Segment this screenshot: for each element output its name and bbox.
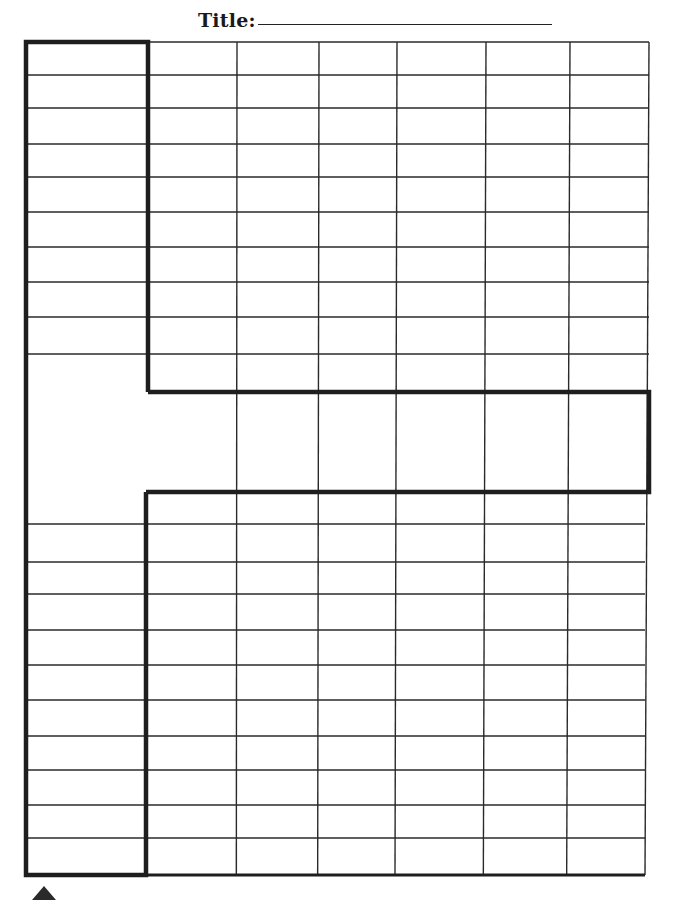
left-column-cell[interactable] [26, 805, 148, 838]
grid-cell[interactable] [570, 282, 649, 317]
grid-cell[interactable] [148, 108, 237, 144]
grid-cell[interactable] [148, 177, 237, 212]
grid-cell[interactable] [397, 317, 486, 354]
grid-cell[interactable] [319, 562, 397, 594]
grid-cell[interactable] [237, 562, 319, 594]
left-column-cell[interactable] [26, 317, 148, 354]
grid-cell[interactable] [237, 665, 319, 700]
grid-cell[interactable] [237, 282, 319, 317]
grid-cell[interactable] [570, 665, 649, 700]
grid-cell[interactable] [570, 144, 649, 177]
grid-cell[interactable] [397, 805, 486, 838]
left-column-cell[interactable] [26, 630, 148, 665]
grid-cell[interactable] [397, 212, 486, 247]
left-column-cell[interactable] [26, 665, 148, 700]
grid-cell[interactable] [237, 177, 319, 212]
grid-cell[interactable] [237, 770, 319, 805]
left-column-cell[interactable] [26, 838, 148, 875]
grid-cell[interactable] [319, 805, 397, 838]
grid-cell[interactable] [319, 177, 397, 212]
grid-cell[interactable] [486, 354, 570, 392]
grid-cell[interactable] [570, 75, 649, 108]
grid-cell[interactable] [237, 108, 319, 144]
grid-cell[interactable] [486, 212, 570, 247]
left-column-cell[interactable] [26, 700, 148, 736]
grid-cell[interactable] [486, 282, 570, 317]
grid-cell[interactable] [486, 42, 570, 75]
left-column-cell[interactable] [26, 212, 148, 247]
grid-cell[interactable] [486, 594, 570, 630]
grid-cell[interactable] [397, 736, 486, 770]
grid-cell[interactable] [148, 524, 237, 562]
grid-cell[interactable] [148, 144, 237, 177]
grid-cell[interactable] [148, 594, 237, 630]
left-column-cell[interactable] [26, 177, 148, 212]
grid-cell[interactable] [237, 212, 319, 247]
grid-cell[interactable] [397, 594, 486, 630]
grid-cell[interactable] [237, 805, 319, 838]
grid-cell[interactable] [237, 317, 319, 354]
grid-cell[interactable] [319, 736, 397, 770]
grid-cell[interactable] [237, 354, 319, 392]
grid-cell[interactable] [570, 630, 649, 665]
grid-cell[interactable] [486, 108, 570, 144]
grid-cell[interactable] [319, 838, 397, 875]
left-column-cell[interactable] [26, 144, 148, 177]
grid-cell[interactable] [570, 524, 649, 562]
grid-cell[interactable] [237, 75, 319, 108]
left-column-cell[interactable] [26, 42, 148, 75]
grid-cell[interactable] [570, 700, 649, 736]
grid-cell[interactable] [486, 177, 570, 212]
grid-cell[interactable] [397, 838, 486, 875]
grid-cell[interactable] [570, 736, 649, 770]
grid-cell[interactable] [486, 75, 570, 108]
grid-cell[interactable] [397, 665, 486, 700]
grid-cell[interactable] [397, 144, 486, 177]
grid-cell[interactable] [148, 736, 237, 770]
grid-cell[interactable] [486, 665, 570, 700]
grid-cell[interactable] [570, 247, 649, 282]
grid-cell[interactable] [570, 838, 649, 875]
highlight-band-cell[interactable] [570, 392, 649, 524]
highlight-band-cell[interactable] [319, 392, 397, 524]
grid-cell[interactable] [319, 524, 397, 562]
grid-cell[interactable] [397, 354, 486, 392]
grid-cell[interactable] [570, 212, 649, 247]
grid-cell[interactable] [237, 42, 319, 75]
grid-cell[interactable] [397, 630, 486, 665]
grid-cell[interactable] [237, 736, 319, 770]
grid-cell[interactable] [486, 770, 570, 805]
grid-cell[interactable] [319, 630, 397, 665]
grid-cell[interactable] [397, 562, 486, 594]
left-column-label-cell[interactable] [26, 354, 148, 524]
grid-cell[interactable] [397, 770, 486, 805]
grid-cell[interactable] [486, 805, 570, 838]
grid-cell[interactable] [397, 247, 486, 282]
grid-cell[interactable] [319, 594, 397, 630]
grid-cell[interactable] [486, 247, 570, 282]
grid-cell[interactable] [570, 108, 649, 144]
grid-cell[interactable] [148, 247, 237, 282]
left-column-cell[interactable] [26, 108, 148, 144]
left-column-cell[interactable] [26, 562, 148, 594]
grid-cell[interactable] [148, 630, 237, 665]
left-column-cell[interactable] [26, 524, 148, 562]
grid-cell[interactable] [148, 562, 237, 594]
grid-cell[interactable] [397, 282, 486, 317]
grid-cell[interactable] [486, 700, 570, 736]
grid-cell[interactable] [319, 282, 397, 317]
grid-cell[interactable] [148, 770, 237, 805]
grid-cell[interactable] [570, 562, 649, 594]
grid-cell[interactable] [486, 524, 570, 562]
grid-cell[interactable] [397, 42, 486, 75]
highlight-band-cell[interactable] [397, 392, 486, 524]
left-column-cell[interactable] [26, 770, 148, 805]
grid-cell[interactable] [570, 354, 649, 392]
grid-cell[interactable] [319, 665, 397, 700]
highlight-band-cell[interactable] [237, 392, 319, 524]
grid-cell[interactable] [319, 770, 397, 805]
grid-cell[interactable] [397, 700, 486, 736]
grid-cell[interactable] [570, 594, 649, 630]
highlight-band-cell[interactable] [148, 392, 237, 524]
grid-cell[interactable] [237, 524, 319, 562]
